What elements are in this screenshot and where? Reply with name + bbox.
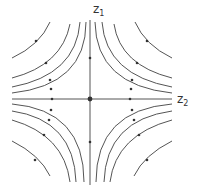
equilibrium-point bbox=[88, 97, 93, 102]
z1-axis-label: z1 bbox=[93, 2, 104, 18]
phase-portrait: z1 z2 bbox=[0, 0, 198, 191]
trajectories bbox=[0, 0, 198, 191]
z2-axis-label: z2 bbox=[177, 92, 188, 108]
